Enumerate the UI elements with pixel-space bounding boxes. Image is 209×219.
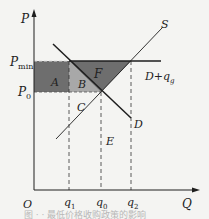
- region-a-label: A: [50, 76, 59, 89]
- p0-label: P0: [17, 85, 31, 101]
- price-support-diagram: P Q O Pmin P0 q1 q0 q2 S D D+qg A B C F …: [0, 0, 209, 219]
- region-b-label: B: [77, 78, 86, 91]
- region-f-label: F: [93, 67, 103, 81]
- demand-label: D: [133, 118, 143, 131]
- figure-caption: 图 · · 最低价格收购政策的影响: [24, 209, 146, 219]
- y-axis-arrow-icon: [32, 9, 37, 17]
- y-axis-label: P: [20, 12, 30, 26]
- q1-label: q1: [64, 196, 76, 211]
- region-e-label: E: [105, 135, 114, 148]
- x-axis-label: Q: [182, 197, 192, 211]
- pmin-label: Pmin: [9, 55, 33, 71]
- supply-label: S: [161, 18, 169, 31]
- x-axis-arrow-icon: [192, 188, 200, 193]
- q2-label: q2: [127, 196, 139, 211]
- region-c-label: C: [77, 101, 86, 114]
- demand-plus-label: D+qg: [144, 70, 175, 85]
- q0-label: q0: [96, 196, 108, 211]
